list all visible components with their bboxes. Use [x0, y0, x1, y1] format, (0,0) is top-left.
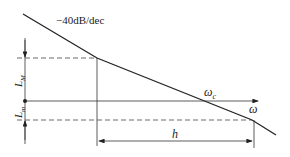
magnitude-curve [23, 14, 276, 135]
omega-label: ω [249, 103, 257, 115]
omega-c-label: ωc [204, 86, 216, 101]
h-label: h [172, 128, 178, 140]
bode-diagram [0, 0, 290, 157]
Lm-label: Lm [13, 107, 27, 118]
origin-dot [23, 99, 27, 103]
LM-label: LM [13, 75, 27, 87]
slope-label: −40dB/dec [56, 15, 104, 26]
